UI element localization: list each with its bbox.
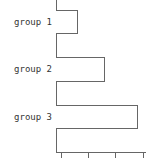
bar-group-3 xyxy=(56,105,138,129)
x-tick xyxy=(143,152,144,158)
x-tick xyxy=(61,152,62,158)
x-tick xyxy=(115,152,116,158)
category-label-group-3: group 3 xyxy=(0,112,52,122)
bar-group-2 xyxy=(56,57,105,82)
horizontal-bar-chart: group 1 group 2 group 3 xyxy=(0,0,152,168)
bar-group-1 xyxy=(56,10,78,34)
category-label-group-2: group 2 xyxy=(0,64,52,74)
category-label-group-1: group 1 xyxy=(0,17,52,27)
x-tick xyxy=(88,152,89,158)
x-axis-line xyxy=(56,152,146,153)
